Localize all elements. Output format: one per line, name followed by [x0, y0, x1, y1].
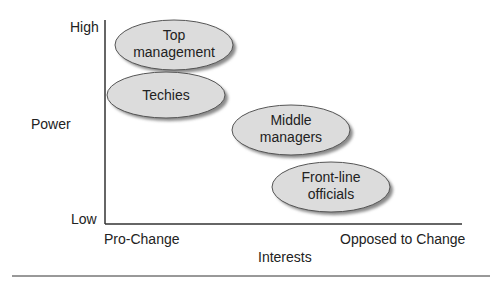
- x-axis-right-label: Opposed to Change: [340, 231, 465, 247]
- x-axis-left-label: Pro-Change: [104, 231, 180, 247]
- group-label-line2: managers: [260, 129, 322, 145]
- group-label-line2: officials: [308, 186, 354, 202]
- group-label-line1: Middle: [270, 112, 311, 128]
- ellipse-top-management: Top management: [115, 20, 236, 73]
- x-axis-title: Interests: [258, 249, 312, 265]
- y-axis-high-label: High: [70, 19, 99, 35]
- y-axis-title: Power: [31, 116, 71, 132]
- ellipse-middle-managers: Middle managers: [232, 105, 353, 158]
- group-label-line1: Techies: [142, 87, 189, 103]
- y-axis-low-label: Low: [71, 211, 97, 227]
- group-label-line1: Top: [163, 27, 186, 43]
- ellipse-front-line-officials: Front-line officials: [272, 162, 393, 215]
- group-label-line2: management: [133, 44, 215, 60]
- group-label-line1: Front-line: [301, 169, 360, 185]
- ellipse-techies: Techies: [107, 72, 228, 121]
